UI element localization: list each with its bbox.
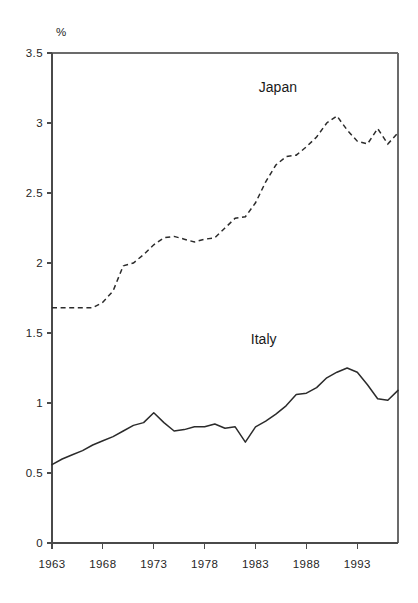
x-tick-label: 1978: [191, 558, 218, 570]
y-tick-label: 2.5: [26, 187, 43, 199]
series-label-italy: Italy: [251, 331, 277, 347]
series-line-japan: [52, 116, 398, 308]
y-tick-label: 1.5: [26, 327, 43, 339]
x-tick-label: 1973: [140, 558, 167, 570]
y-tick-label: 1: [36, 397, 43, 409]
line-chart: 00.511.522.533.5 19631968197319781983198…: [0, 0, 418, 603]
x-tick-label: 1963: [38, 558, 65, 570]
x-tick-label: 1988: [293, 558, 320, 570]
y-tick-label: 3.5: [26, 47, 43, 59]
x-tick-label: 1968: [89, 558, 116, 570]
series-annotations: JapanItaly: [251, 79, 297, 347]
series-label-japan: Japan: [259, 79, 297, 95]
y-axis-ticks: 00.511.522.533.5: [26, 47, 52, 549]
plot-frame: [52, 53, 398, 543]
series-line-italy: [52, 368, 398, 465]
y-tick-label: 0: [36, 537, 43, 549]
y-tick-label: 3: [36, 117, 43, 129]
x-tick-label: 1983: [242, 558, 269, 570]
series-layer: [52, 116, 398, 465]
x-axis-ticks: 1963196819731978198319881993: [38, 543, 370, 570]
y-axis-unit-label: %: [56, 26, 66, 38]
y-tick-label: 2: [36, 257, 43, 269]
x-tick-label: 1993: [344, 558, 371, 570]
y-tick-label: 0.5: [26, 467, 43, 479]
chart-container: 00.511.522.533.5 19631968197319781983198…: [0, 0, 418, 603]
